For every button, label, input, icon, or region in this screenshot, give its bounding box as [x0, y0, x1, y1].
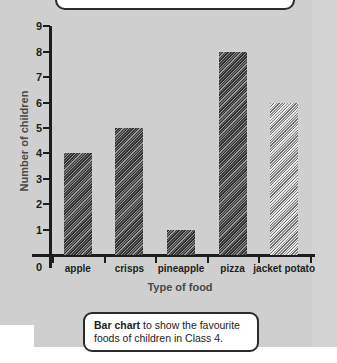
bar-jacket-potato [270, 103, 298, 255]
bar-chart-page: 987654321 0 applecrispspineapplepizzajac… [0, 0, 337, 363]
bar-pizza [219, 52, 247, 255]
caption-bold-lead: Bar chart [94, 319, 140, 331]
x-label-jacket-potato: jacket potato [250, 263, 318, 274]
x-tick-0 [52, 256, 54, 263]
chart-plot-area: 987654321 0 applecrispspineapplepizzajac… [0, 0, 337, 300]
bar-pineapple [167, 230, 195, 255]
chart-caption: Bar chart to show the favourite foods of… [83, 312, 259, 352]
y-axis-zero-label: 0 [33, 261, 42, 273]
x-tick-1 [104, 256, 106, 263]
bar-crisps [115, 128, 143, 255]
bars-layer [0, 0, 337, 255]
x-tick-5 [310, 256, 312, 263]
bar-apple [64, 153, 92, 255]
x-tick-2 [155, 256, 157, 263]
y-axis-title: Number of children [18, 71, 30, 211]
x-axis-title: Type of food [100, 281, 260, 293]
x-tick-3 [207, 256, 209, 263]
x-tick-4 [258, 256, 260, 263]
